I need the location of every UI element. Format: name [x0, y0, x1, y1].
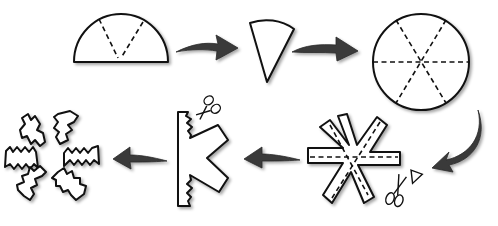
scissors-icon: [192, 94, 223, 124]
asterisk-outline: [308, 114, 400, 203]
arrow-right-2: [292, 37, 358, 61]
snowflake-diagram: [0, 0, 498, 226]
circle-step: [373, 14, 469, 110]
asterisk-step: [308, 114, 400, 203]
wedge-outline: [250, 20, 294, 82]
arrow-left-2: [113, 147, 167, 169]
arrow-right-1: [176, 35, 238, 60]
k-shape-step: [178, 112, 228, 206]
semicircle-outline: [74, 14, 168, 62]
scissors-icon: [384, 165, 422, 211]
snowflake-arm-upper-left: [20, 114, 45, 146]
jagged-snowflake-step: [5, 111, 99, 200]
wedge-step: [250, 20, 294, 82]
snowflake-arm-right: [64, 146, 99, 166]
snowflake-arm-lower-left: [17, 166, 46, 200]
snowflake-arm-lower-right: [52, 168, 86, 200]
arrow-curved-down: [432, 110, 481, 172]
arrow-left-1: [244, 147, 300, 168]
snowflake-arm-left: [5, 147, 38, 169]
k-shape-outline: [178, 112, 228, 206]
semicircle-step: [74, 14, 168, 62]
snowflake-arm-upper-right: [54, 111, 78, 144]
circle-outline: [373, 14, 469, 110]
